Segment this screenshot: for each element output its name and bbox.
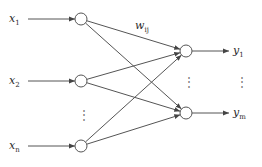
edge-x2-ym bbox=[87, 83, 181, 112]
edge-xn-y1 bbox=[85, 55, 181, 142]
input-label-xn: xn bbox=[9, 139, 20, 154]
neuron-node-ym bbox=[180, 107, 192, 119]
output-label-y1: y1 bbox=[232, 44, 244, 59]
edge-xn-ym bbox=[87, 115, 181, 144]
edge-x1-y1 bbox=[87, 21, 181, 50]
neuron-node-xn bbox=[75, 140, 87, 152]
input-ellipsis: ⋮ bbox=[78, 108, 90, 122]
output-node-ellipsis: ⋮ bbox=[183, 75, 195, 89]
edge-x2-y1 bbox=[87, 53, 180, 80]
input-label-x1: x1 bbox=[9, 12, 20, 27]
neural-network-diagram: x1x2xny1ym wij ⋮ ⋮ ⋮ bbox=[0, 0, 262, 167]
output-label-ym: ym bbox=[232, 106, 246, 121]
weight-edges bbox=[85, 21, 181, 144]
weight-label: wij bbox=[135, 19, 149, 34]
input-arrows bbox=[28, 19, 75, 146]
neuron-node-x2 bbox=[75, 75, 87, 87]
output-label-ellipsis: ⋮ bbox=[236, 75, 248, 89]
neuron-node-x1 bbox=[75, 13, 87, 25]
input-label-x2: x2 bbox=[9, 74, 20, 89]
neuron-node-y1 bbox=[180, 45, 192, 57]
neuron-nodes bbox=[75, 13, 192, 152]
output-arrows bbox=[192, 51, 229, 113]
